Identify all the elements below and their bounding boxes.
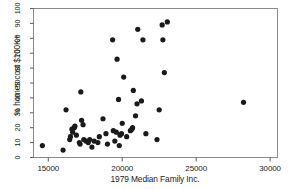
data-point [162, 70, 167, 75]
data-point [131, 88, 136, 93]
data-point [134, 101, 139, 106]
x-tick-label: 15000 [28, 164, 68, 173]
data-point [60, 147, 65, 152]
data-point [130, 125, 135, 130]
data-point [160, 22, 165, 27]
data-point [140, 37, 145, 42]
data-point [100, 116, 105, 121]
data-point [97, 134, 102, 139]
data-point [80, 122, 85, 127]
data-point [241, 100, 246, 105]
x-tick-label: 25000 [176, 164, 216, 173]
x-tick-label: 20000 [102, 164, 142, 173]
data-point [120, 121, 125, 126]
data-point [87, 137, 92, 142]
data-point [110, 37, 115, 42]
data-point [116, 97, 121, 102]
data-point [63, 107, 68, 112]
data-point [117, 143, 122, 148]
data-point [77, 141, 82, 146]
data-point [95, 140, 100, 145]
data-point [89, 144, 94, 149]
plot-canvas [0, 0, 295, 189]
data-point [154, 137, 159, 142]
data-point [160, 37, 165, 42]
data-point [165, 19, 170, 24]
data-point [119, 131, 124, 136]
data-point [74, 133, 79, 138]
data-point [78, 89, 83, 94]
data-point [105, 141, 110, 146]
data-point [133, 113, 138, 118]
y-tick-label: 100 [11, 0, 22, 20]
x-tick-label: 30000 [250, 164, 290, 173]
data-point [40, 143, 45, 148]
data-point-group [40, 19, 246, 152]
data-point [79, 118, 84, 123]
data-point [139, 98, 144, 103]
data-point [72, 124, 77, 129]
scatter-plot-figure: % homes cost $100K+ 1979 Median Family I… [0, 0, 295, 189]
data-point [112, 139, 117, 144]
data-point [135, 27, 140, 32]
data-point [143, 131, 148, 136]
data-point [103, 131, 108, 136]
data-point [157, 107, 162, 112]
x-axis-label: 1979 Median Family Inc. [33, 174, 277, 184]
data-point [68, 134, 73, 139]
data-point [114, 57, 119, 62]
data-point [121, 74, 126, 79]
data-point [124, 134, 129, 139]
